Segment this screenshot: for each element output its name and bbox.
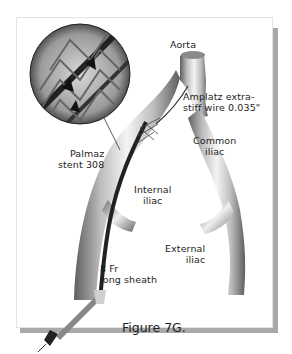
label-internal-iliac-line1: Internal bbox=[134, 184, 171, 195]
label-external-iliac-line1: External bbox=[165, 243, 205, 254]
label-stent-line1: Palmaz bbox=[70, 148, 104, 159]
label-internal-iliac-line2: iliac bbox=[143, 195, 162, 206]
label-sheath-line2: long sheath bbox=[100, 274, 157, 285]
label-wire-line2: stiff wire 0.035" bbox=[183, 102, 260, 113]
label-common-iliac-line1: Common bbox=[193, 135, 236, 146]
label-sheath: 8 Frlong sheath bbox=[100, 263, 157, 285]
label-common-iliac: Commoniliac bbox=[193, 135, 236, 157]
sheath-hub bbox=[38, 290, 106, 352]
label-stent-line2: stent 308 bbox=[58, 159, 104, 170]
figure-caption: Figure 7G. bbox=[122, 320, 186, 335]
label-common-iliac-line2: iliac bbox=[205, 146, 224, 157]
label-external-iliac-line2: iliac bbox=[186, 254, 205, 265]
label-sheath-line1: 8 Fr bbox=[100, 263, 118, 274]
label-aorta-text: Aorta bbox=[170, 39, 196, 50]
label-internal-iliac: Internaliliac bbox=[134, 184, 171, 206]
label-aorta: Aorta bbox=[170, 39, 196, 50]
label-wire-line1: Amplatz extra- bbox=[183, 91, 255, 102]
vascular-illustration bbox=[0, 0, 292, 354]
label-external-iliac: Externaliliac bbox=[165, 243, 205, 265]
label-wire: Amplatz extra-stiff wire 0.035" bbox=[183, 91, 260, 113]
label-stent: Palmazstent 308 bbox=[58, 148, 104, 170]
